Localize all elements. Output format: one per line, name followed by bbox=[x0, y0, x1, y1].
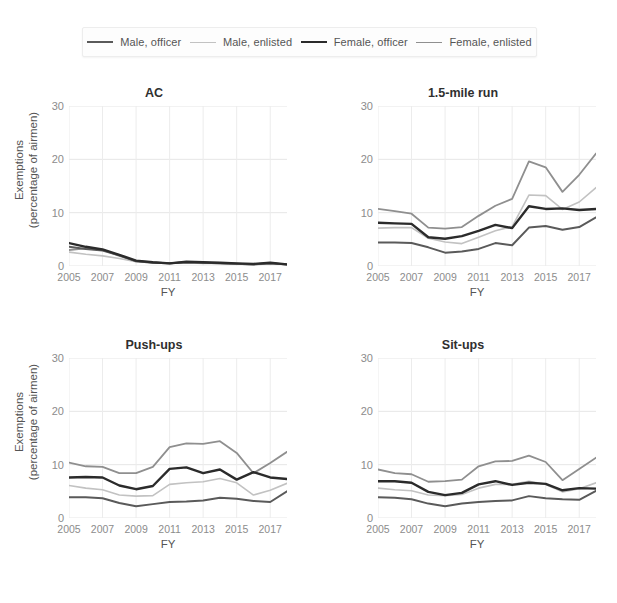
legend-swatch-female-officer bbox=[301, 41, 327, 43]
legend-entry-male-officer: Male, officer bbox=[87, 36, 181, 48]
y-axis-tick-label: 20 bbox=[36, 406, 64, 416]
y-axis-tick-label: 10 bbox=[345, 460, 373, 470]
plot-area-situps: 30201002005200720092011201320152017 bbox=[378, 358, 596, 518]
x-axis-tick-label: 2005 bbox=[361, 524, 395, 534]
y-axis-tick-label: 30 bbox=[345, 353, 373, 363]
series-line bbox=[378, 456, 596, 482]
y-axis-tick-label: 0 bbox=[36, 513, 64, 523]
series-line bbox=[69, 467, 287, 489]
legend-swatch-male-enlisted bbox=[190, 42, 216, 43]
y-axis-tick-label: 0 bbox=[345, 513, 373, 523]
y-axis-tick-label: 10 bbox=[36, 460, 64, 470]
panel-situps: Sit-ups 30201002005200720092011201320152… bbox=[309, 330, 617, 590]
legend-label-female-officer: Female, officer bbox=[334, 36, 408, 48]
chart-canvas bbox=[378, 358, 596, 518]
panel-pushups: Push-ups Exemptions (percentage of airme… bbox=[0, 330, 308, 590]
panel-title-pushups: Push-ups bbox=[0, 338, 308, 352]
y-axis-tick-label: 0 bbox=[36, 261, 64, 271]
x-axis-tick-label: 2013 bbox=[186, 524, 220, 534]
x-axis-tick-label: 2005 bbox=[52, 272, 86, 282]
series-line bbox=[378, 153, 596, 228]
series-line bbox=[378, 481, 596, 495]
x-axis-tick-label: 2007 bbox=[395, 524, 429, 534]
panel-title-run: 1.5-mile run bbox=[309, 86, 617, 100]
x-axis-tick-label: 2011 bbox=[462, 272, 496, 282]
y-axis-tick-label: 20 bbox=[36, 154, 64, 164]
x-axis-tick-label: 2005 bbox=[52, 524, 86, 534]
y-axis-tick-label: 30 bbox=[36, 353, 64, 363]
legend-entry-male-enlisted: Male, enlisted bbox=[190, 36, 292, 48]
x-axis-tick-label: 2013 bbox=[495, 524, 529, 534]
x-axis-tick-label: 2017 bbox=[253, 272, 287, 282]
legend-label-female-enlisted: Female, enlisted bbox=[449, 36, 531, 48]
series-line bbox=[69, 243, 287, 264]
y-axis-tick-label: 30 bbox=[345, 101, 373, 111]
chart-canvas bbox=[378, 106, 596, 266]
y-axis-tick-label: 20 bbox=[345, 406, 373, 416]
x-axis-label-pushups: FY bbox=[58, 538, 278, 550]
legend-entry-female-officer: Female, officer bbox=[301, 36, 408, 48]
x-axis-tick-label: 2013 bbox=[495, 272, 529, 282]
x-axis-tick-label: 2011 bbox=[462, 524, 496, 534]
x-axis-tick-label: 2015 bbox=[220, 524, 254, 534]
x-axis-tick-label: 2013 bbox=[186, 272, 220, 282]
x-axis-label-situps: FY bbox=[367, 538, 587, 550]
legend-swatch-male-officer bbox=[87, 41, 113, 43]
y-axis-tick-label: 10 bbox=[345, 208, 373, 218]
x-axis-tick-label: 2005 bbox=[361, 272, 395, 282]
series-line bbox=[69, 491, 287, 506]
legend-label-male-officer: Male, officer bbox=[120, 36, 181, 48]
x-axis-tick-label: 2011 bbox=[153, 272, 187, 282]
x-axis-tick-label: 2017 bbox=[253, 524, 287, 534]
panel-title-situps: Sit-ups bbox=[309, 338, 617, 352]
chart-canvas bbox=[69, 106, 287, 266]
y-axis-tick-label: 0 bbox=[345, 261, 373, 271]
x-axis-tick-label: 2015 bbox=[529, 524, 563, 534]
legend-label-male-enlisted: Male, enlisted bbox=[223, 36, 292, 48]
chart-grid: AC Exemptions (percentage of airmen) 302… bbox=[0, 78, 617, 598]
x-axis-label-run: FY bbox=[367, 286, 587, 298]
panel-ac: AC Exemptions (percentage of airmen) 302… bbox=[0, 78, 308, 338]
legend-swatch-female-enlisted bbox=[416, 42, 442, 43]
chart-legend: Male, officer Male, enlisted Female, off… bbox=[82, 27, 537, 57]
legend-entry-female-enlisted: Female, enlisted bbox=[416, 36, 531, 48]
y-axis-tick-label: 20 bbox=[345, 154, 373, 164]
series-line bbox=[378, 188, 596, 244]
y-axis-tick-label: 30 bbox=[36, 101, 64, 111]
plot-area-pushups: 30201002005200720092011201320152017 bbox=[69, 358, 287, 518]
x-axis-tick-label: 2007 bbox=[395, 272, 429, 282]
chart-canvas bbox=[69, 358, 287, 518]
x-axis-tick-label: 2017 bbox=[562, 272, 596, 282]
series-line bbox=[69, 479, 287, 497]
x-axis-tick-label: 2015 bbox=[529, 272, 563, 282]
x-axis-tick-label: 2017 bbox=[562, 524, 596, 534]
plot-area-run: 30201002005200720092011201320152017 bbox=[378, 106, 596, 266]
series-line bbox=[378, 491, 596, 506]
x-axis-tick-label: 2009 bbox=[428, 524, 462, 534]
x-axis-tick-label: 2011 bbox=[153, 524, 187, 534]
panel-run: 1.5-mile run 302010020052007200920112013… bbox=[309, 78, 617, 338]
x-axis-tick-label: 2015 bbox=[220, 272, 254, 282]
x-axis-tick-label: 2009 bbox=[119, 524, 153, 534]
x-axis-tick-label: 2007 bbox=[86, 272, 120, 282]
plot-area-ac: 30201002005200720092011201320152017 bbox=[69, 106, 287, 266]
panel-title-ac: AC bbox=[0, 86, 308, 100]
y-axis-tick-label: 10 bbox=[36, 208, 64, 218]
x-axis-label-ac: FY bbox=[58, 286, 278, 298]
x-axis-tick-label: 2007 bbox=[86, 524, 120, 534]
x-axis-tick-label: 2009 bbox=[119, 272, 153, 282]
x-axis-tick-label: 2009 bbox=[428, 272, 462, 282]
